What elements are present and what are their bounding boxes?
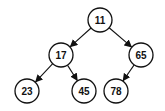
tree-node-45: 45 <box>72 79 96 103</box>
node-label: 45 <box>78 86 90 97</box>
node-label: 17 <box>55 50 67 61</box>
edge-11-to-65 <box>109 28 131 47</box>
edge-17-to-23 <box>36 64 53 82</box>
edge-65-to-78 <box>123 65 134 81</box>
nodes: 111765234578 <box>15 8 153 103</box>
edge-17-to-45 <box>67 65 77 80</box>
node-label: 78 <box>110 86 122 97</box>
edge-11-to-17 <box>70 28 91 47</box>
tree-node-11: 11 <box>88 8 112 32</box>
tree-node-78: 78 <box>104 79 128 103</box>
tree-node-23: 23 <box>15 79 39 103</box>
node-label: 11 <box>95 15 106 26</box>
node-label: 23 <box>21 86 33 97</box>
tree-node-17: 17 <box>49 43 73 67</box>
binary-tree-diagram: 111765234578 <box>0 0 165 111</box>
tree-node-65: 65 <box>129 43 153 67</box>
node-label: 65 <box>135 50 147 61</box>
